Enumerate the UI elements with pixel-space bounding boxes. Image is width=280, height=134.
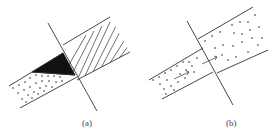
boundary-line-b xyxy=(187,21,233,105)
left-band-bottom-edge xyxy=(162,72,213,99)
panel-label-b: (b) xyxy=(226,118,237,128)
right-band-top-edge xyxy=(198,7,253,39)
diagram-canvas xyxy=(0,0,280,134)
overlap-wedge xyxy=(32,53,75,75)
hatch-fill xyxy=(66,22,130,78)
flow-arrow-icon xyxy=(174,71,189,79)
right-band-top-edge xyxy=(63,17,110,45)
panel-label-a: (a) xyxy=(82,118,92,128)
dot-fill-b xyxy=(152,14,263,95)
left-band-top-edge xyxy=(149,48,203,80)
left-band-bottom-edge xyxy=(20,77,77,108)
panel-b xyxy=(149,7,268,105)
panel-a xyxy=(9,17,130,111)
right-band-bottom-edge xyxy=(217,50,268,73)
